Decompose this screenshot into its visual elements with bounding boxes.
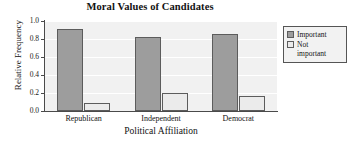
- legend-swatch-icon: [287, 41, 294, 48]
- y-axis-tick: [41, 21, 45, 22]
- legend-item-label: Important: [297, 30, 327, 39]
- y-axis-line: [44, 20, 45, 112]
- x-axis-tick-label-democrat: Democrat: [198, 114, 278, 123]
- chart-title: Moral Values of Candidates: [0, 1, 300, 12]
- gridline: [45, 21, 277, 22]
- bar-independent-important: [135, 37, 161, 111]
- chart-figure: Moral Values of Candidates 0.00.20.40.60…: [0, 0, 352, 143]
- legend-item-not-important[interactable]: Notimportant: [287, 40, 343, 58]
- y-axis-tick: [41, 75, 45, 76]
- x-axis-tick-label-republican: Republican: [44, 114, 124, 123]
- x-axis-line: [44, 111, 278, 112]
- x-axis-title: Political Affiliation: [45, 126, 277, 136]
- chart-legend: ImportantNotimportant: [283, 26, 347, 63]
- y-axis-tick-label: 0.0: [14, 107, 39, 115]
- x-axis-tick-label-independent: Independent: [121, 114, 201, 123]
- y-axis-title: Relative Frequency: [13, 5, 23, 105]
- y-axis-tick: [41, 39, 45, 40]
- bar-republican-not-important: [84, 103, 110, 111]
- y-axis-tick: [41, 111, 45, 112]
- y-axis-tick: [41, 57, 45, 58]
- bar-republican-important: [57, 29, 83, 111]
- legend-item-label: Notimportant: [297, 40, 326, 58]
- bar-democrat-not-important: [239, 96, 265, 111]
- legend-swatch-icon: [287, 31, 294, 38]
- bar-democrat-important: [212, 34, 238, 111]
- bar-independent-not-important: [162, 93, 188, 111]
- y-axis-tick: [41, 93, 45, 94]
- plot-area: [45, 21, 277, 111]
- legend-item-important[interactable]: Important: [287, 30, 343, 39]
